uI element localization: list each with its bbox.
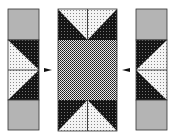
right-strip [136,9,167,130]
right-flying-geese [136,40,167,100]
center-bottom-flying-geese [58,100,117,131]
left-strip [8,9,39,130]
center-grid-rectangle [58,40,117,100]
quilt-diagram [0,0,173,137]
left-flying-geese [8,40,39,100]
center-strip [58,9,117,131]
right-bottom-gray-square [136,100,167,130]
center-top-flying-geese [58,9,117,40]
left-top-gray-square [8,9,39,40]
right-top-gray-square [136,9,167,40]
left-bottom-gray-square [8,100,39,130]
